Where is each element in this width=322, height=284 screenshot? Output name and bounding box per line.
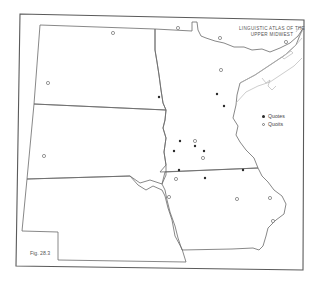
map-title-line2: Upper Midwest [232,32,312,38]
quote-marker [203,150,205,152]
quote-marker [216,93,218,95]
quoit-marker [219,68,222,71]
quoit-marker [42,154,45,157]
legend-item-quoits: Quoits [262,121,285,129]
map-legend: Quotes Quoits [262,113,285,128]
filled-dot-icon [262,115,265,118]
quoit-marker [268,196,271,199]
quoit-marker [235,197,238,200]
quoit-marker [174,177,177,180]
quoit-marker [167,195,170,198]
quoit-marker [271,219,274,222]
quoit-marker [284,40,287,43]
quoit-marker [176,26,179,29]
quote-marker [179,140,181,142]
quoit-marker [201,156,204,159]
legend-item-quotes: Quotes [262,113,285,121]
map-canvas: Linguistic Atlas of the Upper Midwest Qu… [0,0,322,284]
map-title: Linguistic Atlas of the Upper Midwest [232,26,312,38]
quote-marker [173,150,175,152]
legend-label-quotes: Quotes [268,113,285,121]
quoit-marker [218,36,221,39]
quote-marker [178,169,180,171]
figure-label: Fig. 28.3 [30,250,50,256]
quote-marker [158,96,160,98]
quote-marker [204,177,206,179]
quoit-marker [46,81,49,84]
markers-layer [0,0,322,284]
open-circle-icon [262,123,265,126]
legend-label-quoits: Quoits [268,121,283,129]
quote-marker [223,105,225,107]
quote-marker [194,145,196,147]
quoit-marker [111,31,114,34]
quote-marker [242,169,244,171]
quoit-marker [193,139,196,142]
